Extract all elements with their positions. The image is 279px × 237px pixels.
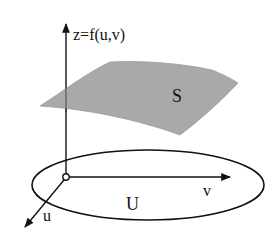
surface-diagram: z=f(u,v) S U v u [0,0,279,237]
surface-s [40,61,238,135]
v-axis-label: v [203,182,211,199]
domain-ellipse [32,150,264,220]
u-axis-label: u [43,207,51,224]
origin-point [63,174,69,180]
domain-label: U [126,194,139,214]
z-axis-label: z=f(u,v) [73,26,125,44]
surface-label: S [172,86,182,106]
